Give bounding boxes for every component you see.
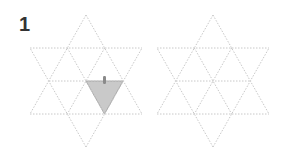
grid-line xyxy=(30,48,86,147)
highlighted-triangle xyxy=(86,81,123,114)
grid-line xyxy=(213,48,269,147)
grid-line xyxy=(213,15,269,114)
grid-line xyxy=(157,15,213,114)
grid-line xyxy=(30,15,86,114)
grid-line xyxy=(86,15,142,114)
star-diagrams xyxy=(0,0,287,154)
right-star-grid xyxy=(157,15,269,147)
left-star-grid xyxy=(30,15,142,147)
marker-piece xyxy=(103,76,106,84)
grid-line xyxy=(157,48,213,147)
